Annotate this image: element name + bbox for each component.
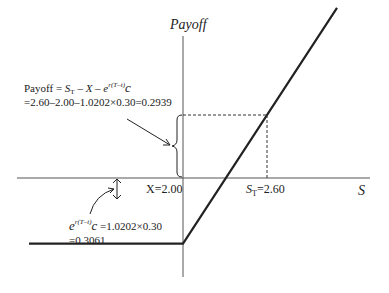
premium-formula-line2: =0.3061: [69, 234, 105, 246]
payoff-pointer-arrow: [127, 119, 170, 145]
premium-rest: =1.0202×0.30: [97, 220, 162, 232]
spot-label-value: =2.60: [257, 182, 285, 196]
payoff-c: c: [125, 80, 131, 95]
premium-formula: er(T–t)c =1.0202×0.30: [69, 218, 162, 233]
strike-label: X=2.00: [146, 182, 182, 196]
payoff-brace: [172, 115, 182, 177]
x-axis-label: S: [358, 183, 365, 198]
payoff-formula-line2: =2.60–2.00–1.0202×0.30=0.2939: [24, 96, 172, 108]
premium-exp: r(T–t): [75, 218, 92, 226]
y-axis-label: Payoff: [169, 17, 209, 32]
payoff-prefix: Payoff =: [24, 82, 65, 94]
spot-label: ST=2.60: [246, 182, 285, 198]
arrow-head-icon: [163, 139, 170, 145]
payoff-exp: r(T–t): [108, 81, 125, 89]
payoff-minus-x: – X – e: [75, 82, 109, 94]
payoff-formula: Payoff = ST – X – er(T–t)c: [24, 80, 131, 96]
payoff-diagram: Payoff S X=2.00 ST=2.60 Payoff = ST – X …: [0, 0, 389, 293]
